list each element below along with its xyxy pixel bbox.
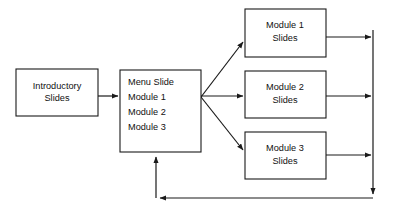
flow-diagram: Introductory Slides Menu Slide Module 1 … xyxy=(0,0,393,217)
module-3-slides-label-line-1: Module 3 xyxy=(266,143,304,153)
menu-slide-item-module-3[interactable]: Module 3 xyxy=(128,122,166,132)
node-module-2-slides[interactable]: Module 2 Slides xyxy=(245,71,326,118)
node-introductory-slides[interactable]: Introductory Slides xyxy=(16,69,98,116)
node-module-1-slides[interactable]: Module 1 Slides xyxy=(245,9,326,57)
module-2-slides-label-line-1: Module 2 xyxy=(266,82,304,92)
node-menu-slide[interactable]: Menu Slide Module 1 Module 2 Module 3 xyxy=(120,70,201,152)
menu-slide-label-title: Menu Slide xyxy=(128,77,174,87)
introductory-slides-label-line-2: Slides xyxy=(44,93,69,103)
connection-menu-to-module-1 xyxy=(201,42,243,97)
module-1-slides-label-line-1: Module 1 xyxy=(266,20,304,30)
module-1-slides-label-line-2: Slides xyxy=(272,33,297,43)
connection-menu-to-module-3 xyxy=(201,97,243,150)
menu-slide-item-module-1[interactable]: Module 1 xyxy=(128,92,166,102)
node-module-3-slides[interactable]: Module 3 Slides xyxy=(245,132,326,179)
menu-slide-item-module-2[interactable]: Module 2 xyxy=(128,107,166,117)
module-2-slides-label-line-2: Slides xyxy=(272,95,297,105)
module-3-slides-label-line-2: Slides xyxy=(272,156,297,166)
introductory-slides-label-line-1: Introductory xyxy=(33,81,82,91)
diagram-canvas: Introductory Slides Menu Slide Module 1 … xyxy=(0,0,393,217)
